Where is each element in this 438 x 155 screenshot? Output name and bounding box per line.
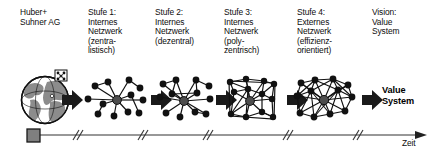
timeline-start-square-icon	[27, 129, 40, 142]
diagram-graphics-layer	[0, 0, 438, 155]
diagram-canvas: Huber+ Suhner AG Stufe 1: Internes Netzw…	[0, 0, 438, 155]
network-graph-icon-stage-1	[85, 77, 147, 120]
globe-icon	[22, 77, 69, 126]
globe-network-badge-icon	[55, 70, 67, 81]
time-axis	[27, 129, 427, 142]
block-arrow-icon	[362, 90, 383, 110]
axis-arrowhead-icon	[415, 131, 427, 139]
